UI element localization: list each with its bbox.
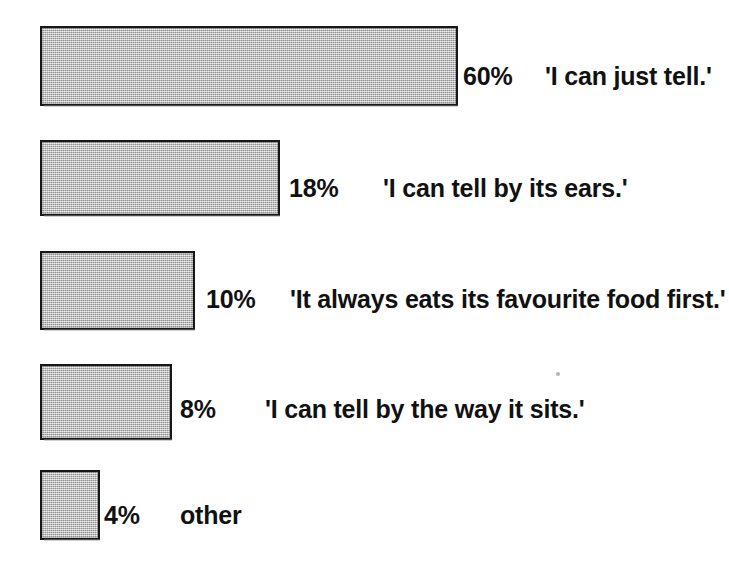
bar-rect-2 — [40, 140, 280, 216]
bar-value-3: 10% — [206, 287, 255, 312]
bar-rect-3 — [40, 251, 195, 330]
bar-label-2: 'I can tell by its ears.' — [383, 176, 628, 201]
bar-rect-1 — [40, 26, 458, 106]
bar-label-1: 'I can just tell.' — [545, 64, 712, 89]
bar-label-5: other — [180, 503, 242, 528]
bar-value-2: 18% — [289, 176, 338, 201]
bar-value-4: 8% — [180, 397, 216, 422]
scan-artifact-speck — [556, 372, 560, 376]
bar-label-4: 'I can tell by the way it sits.' — [265, 397, 584, 422]
bar-rect-5 — [40, 470, 100, 540]
bar-value-1: 60% — [463, 64, 512, 89]
bar-value-5: 4% — [104, 503, 140, 528]
bar-label-3: 'It always eats its favourite food first… — [290, 287, 726, 312]
bar-rect-4 — [40, 364, 172, 440]
bar-chart: 60% 'I can just tell.' 18% 'I can tell b… — [0, 0, 729, 571]
